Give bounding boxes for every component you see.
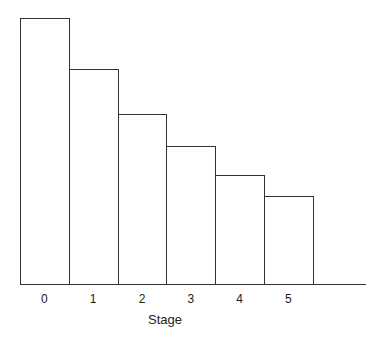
x-tick-label: 2 xyxy=(122,292,162,306)
x-axis-title: Stage xyxy=(105,312,225,327)
bar-stage-2 xyxy=(118,114,168,284)
x-tick-label: 5 xyxy=(268,292,308,306)
x-tick-label: 1 xyxy=(73,292,113,306)
x-axis-line xyxy=(20,284,366,285)
x-tick-label: 4 xyxy=(220,292,260,306)
bar-stage-0 xyxy=(20,18,70,284)
bar-stage-3 xyxy=(166,146,216,284)
stage-bar-chart: 012345 Stage xyxy=(0,0,380,346)
x-tick-label: 3 xyxy=(171,292,211,306)
x-tick-label: 0 xyxy=(24,292,64,306)
bar-stage-4 xyxy=(215,175,265,284)
bar-stage-1 xyxy=(69,69,119,284)
bar-stage-5 xyxy=(264,196,314,284)
